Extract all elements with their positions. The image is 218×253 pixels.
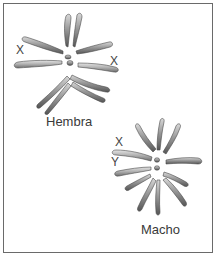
female-chromosome-set (14, 13, 118, 114)
male-chromosome-set (112, 118, 202, 215)
female-x-label-right: X (110, 55, 118, 67)
female-x-label-left: X (16, 44, 24, 56)
male-x-label: X (115, 136, 123, 148)
male-y-label: Y (111, 156, 119, 168)
male-caption: Macho (141, 223, 180, 236)
female-caption: Hembra (46, 115, 92, 128)
